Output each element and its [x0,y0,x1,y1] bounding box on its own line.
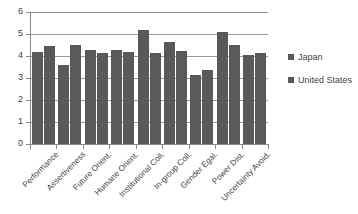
bar [85,50,96,144]
bar-group [138,12,161,144]
bar-group [32,12,55,144]
bar-group [243,12,266,144]
bar-group [164,12,187,144]
bar-group [58,12,81,144]
bar [97,53,108,144]
x-tick-mark [56,145,57,149]
plot-area [30,12,268,144]
bar [243,55,254,144]
bar-group [85,12,108,144]
x-tick-mark [242,145,243,149]
y-tick-mark-6 [26,12,30,13]
y-tick-label-6: 6 [0,7,23,16]
y-tick-mark-2 [26,100,30,101]
bar [176,51,187,144]
chart-legend: JapanUnited States [288,52,358,98]
legend-label: Japan [298,52,323,62]
bar [32,52,43,144]
bar [138,30,149,144]
y-tick-label-3: 3 [0,73,23,82]
bar [217,32,228,144]
bar [150,53,161,144]
y-tick-label-1: 1 [0,117,23,126]
x-axis-line [30,144,269,145]
bar [58,65,69,144]
bar-group [111,12,134,144]
bar [123,52,134,144]
bar [190,75,201,144]
y-tick-mark-5 [26,34,30,35]
bar-group [190,12,213,144]
legend-item[interactable]: United States [288,75,358,85]
legend-item[interactable]: Japan [288,52,358,62]
legend-label: United States [298,75,352,85]
x-tick-mark [189,145,190,149]
y-axis-line [30,12,31,145]
bar-chart: 0123456 PerformanceAssertivenessFuture O… [0,0,358,214]
y-tick-label-0: 0 [0,139,23,148]
legend-swatch-icon [288,54,294,60]
bar-group [217,12,240,144]
y-tick-mark-3 [26,78,30,79]
bar [164,42,175,144]
x-tick-mark [30,145,31,149]
x-tick-mark [136,145,137,149]
bar [255,53,266,144]
x-axis-label-text: Uncertainty Avoid. [219,150,272,203]
x-tick-mark [215,145,216,149]
bar [229,45,240,144]
y-tick-mark-1 [26,122,30,123]
bar [202,70,213,144]
bar [44,46,55,144]
x-tick-mark [268,145,269,149]
y-tick-label-5: 5 [0,29,23,38]
x-tick-mark [83,145,84,149]
bar [111,50,122,144]
y-tick-label-2: 2 [0,95,23,104]
y-tick-label-4: 4 [0,51,23,60]
x-tick-mark [162,145,163,149]
legend-swatch-icon [288,77,294,83]
y-tick-mark-4 [26,56,30,57]
x-tick-mark [109,145,110,149]
bar [70,45,81,144]
